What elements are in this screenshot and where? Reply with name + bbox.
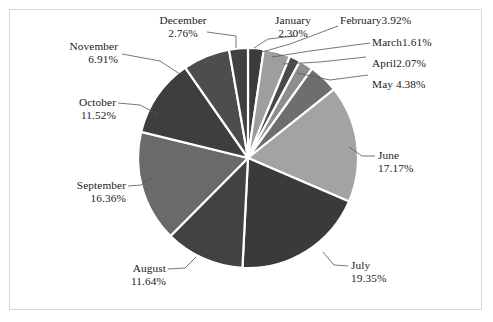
pie-label-november-value: 6.91% bbox=[22, 53, 118, 66]
leader-line-november bbox=[122, 54, 180, 74]
pie-label-september-value: 16.36% bbox=[32, 192, 126, 205]
pie-label-october-value: 11.52% bbox=[28, 109, 116, 122]
pie-label-july-value: 19.35% bbox=[351, 272, 386, 285]
pie-label-june-name: June bbox=[378, 149, 413, 162]
pie-label-september-name: September bbox=[32, 179, 126, 192]
pie-label-december-value: 2.76% bbox=[140, 27, 226, 40]
pie-label-january-value: 2.30% bbox=[258, 27, 328, 40]
pie-label-february-text: February3.92% bbox=[340, 14, 411, 27]
pie-label-october: October 11.52% bbox=[28, 96, 116, 122]
leader-line-august bbox=[168, 257, 196, 269]
pie-label-november: November 6.91% bbox=[22, 40, 118, 66]
pie-slice-group bbox=[138, 48, 358, 268]
leader-line-july bbox=[323, 252, 348, 266]
pie-label-march: March1.61% bbox=[372, 36, 432, 49]
pie-label-may-text: May 4.38% bbox=[372, 78, 426, 91]
pie-label-july-name: July bbox=[351, 259, 386, 272]
pie-label-november-name: November bbox=[22, 40, 118, 53]
pie-label-january: January 2.30% bbox=[258, 14, 328, 40]
pie-label-june-value: 17.17% bbox=[378, 162, 413, 175]
pie-label-december-name: December bbox=[140, 14, 226, 27]
pie-label-january-name: January bbox=[258, 14, 328, 27]
pie-label-october-name: October bbox=[28, 96, 116, 109]
pie-label-april: April2.07% bbox=[372, 57, 426, 70]
pie-label-august-value: 11.64% bbox=[72, 275, 166, 288]
pie-label-september: September 16.36% bbox=[32, 179, 126, 205]
pie-label-june: June 17.17% bbox=[378, 149, 413, 175]
pie-label-december: December 2.76% bbox=[140, 14, 226, 40]
pie-label-august-name: August bbox=[72, 262, 166, 275]
pie-label-may: May 4.38% bbox=[372, 78, 426, 91]
pie-label-april-text: April2.07% bbox=[372, 57, 426, 70]
pie-label-february: February3.92% bbox=[340, 14, 411, 27]
pie-label-july: July 19.35% bbox=[351, 259, 386, 285]
chart-page: December 2.76% January 2.30% February3.9… bbox=[0, 0, 493, 322]
pie-label-august: August 11.64% bbox=[72, 262, 166, 288]
pie-label-march-text: March1.61% bbox=[372, 36, 432, 49]
